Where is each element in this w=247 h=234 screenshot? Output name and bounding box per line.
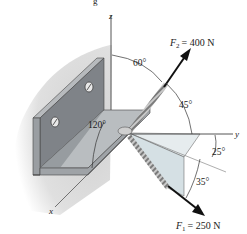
f2-arrow-shaft [164, 58, 184, 87]
angle-60-label: 60° [133, 58, 147, 68]
f1-label: F1= 250 N [175, 220, 220, 233]
z-axis-label: z [108, 11, 113, 21]
caption-fragment: g [93, 0, 98, 6]
angle-bracket [33, 58, 150, 175]
f2-arrowhead [180, 48, 191, 61]
x-axis-label: x [48, 206, 53, 216]
force-diagram: g z x y [0, 0, 247, 234]
angle-45-label: 45° [179, 100, 193, 110]
angle-35-label: 35° [196, 177, 210, 187]
y-axis-label: y [234, 129, 239, 139]
f2-label: F2= 400 N [169, 37, 214, 50]
bolt-lower [51, 117, 59, 127]
bolt-upper [85, 82, 93, 92]
vertical-plate-side [33, 118, 40, 175]
angle-120-label: 120° [88, 120, 106, 130]
weld-joint [118, 127, 132, 135]
f2-rope [130, 84, 166, 131]
angle-25-label: 25° [212, 147, 226, 157]
